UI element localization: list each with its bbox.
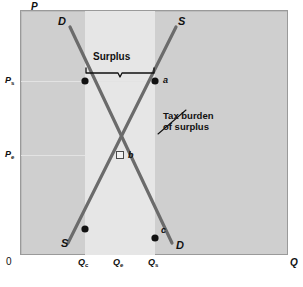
tax-burden-line-1: Tax burden (163, 110, 214, 121)
quantity-tick-qe: Qe (113, 258, 123, 267)
quantity-tick-qs-base: Q (148, 257, 155, 267)
point-marker-c (151, 234, 158, 241)
point-marker-a (151, 77, 158, 84)
surplus-label: Surplus (93, 52, 130, 62)
quantity-tick-qc-sub: c (85, 262, 88, 268)
price-tick-pe: Pe (5, 150, 14, 159)
point-label-c: c (161, 226, 166, 235)
price-tick-ps-sub: s (11, 80, 14, 86)
quantity-tick-qe-sub: e (120, 262, 123, 268)
price-tick-pe-sub: e (11, 154, 14, 160)
supply-curve-top-label: S (178, 16, 185, 27)
point-label-b: b (128, 151, 134, 160)
supply-curve-bottom-label: S (61, 238, 68, 249)
tax-burden-line-2: of surplus (163, 121, 214, 132)
demand-curve-bottom-label: D (176, 240, 184, 251)
tax-burden-annotation: Tax burden of surplus (163, 110, 214, 132)
quantity-tick-qc-base: Q (78, 257, 85, 267)
quantity-tick-qc: Qc (78, 258, 88, 267)
x-axis-label: Q (290, 258, 298, 268)
point-marker-demand-at-ps (81, 77, 88, 84)
point-marker-supply-low (81, 225, 88, 232)
surplus-brace (86, 68, 154, 77)
demand-curve-top-label: D (58, 16, 66, 27)
price-tick-ps: Ps (5, 76, 14, 85)
quantity-tick-qs: Qs (148, 258, 158, 267)
chart-svg (0, 0, 303, 287)
point-label-a: a (163, 76, 168, 85)
quantity-tick-qe-base: Q (113, 257, 120, 267)
origin-label: 0 (6, 257, 12, 267)
quantity-tick-qs-sub: s (155, 262, 158, 268)
figure-container: P Q 0 Ps Pe Qc Qe Qs D S S D a b c Surpl… (0, 0, 303, 287)
point-marker-b (117, 152, 124, 159)
y-axis-label: P (31, 2, 38, 12)
